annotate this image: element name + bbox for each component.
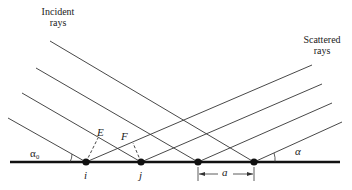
- incident-ray-4: [8, 118, 86, 162]
- point-F-label: F: [121, 131, 128, 142]
- scattered-rays: [86, 65, 342, 162]
- atom-j-label: j: [139, 170, 142, 181]
- atom-3: [194, 158, 201, 165]
- alpha-label: α: [295, 146, 301, 157]
- alpha0-label: α₀: [30, 148, 40, 159]
- incident-ray-1: [50, 41, 254, 162]
- diffraction-diagram: Incident rays Scattered rays α₀ α E F i …: [0, 0, 352, 190]
- incident-rays-label: Incident rays: [33, 6, 83, 28]
- path-difference-E: [86, 138, 98, 162]
- atom-i: [82, 158, 89, 165]
- scattered-rays-label: Scattered rays: [295, 34, 349, 56]
- point-E-label: E: [97, 127, 104, 138]
- arrowhead-right-icon: [247, 172, 253, 176]
- atom-i-label: i: [84, 170, 87, 181]
- arrowhead-left-icon: [199, 172, 205, 176]
- diagram-canvas: [0, 0, 352, 190]
- scattered-label-line2: rays: [295, 45, 349, 56]
- incident-label-line2: rays: [33, 17, 83, 28]
- angle-arc-alpha: [274, 153, 275, 162]
- scattered-ray-3: [198, 103, 332, 162]
- atom-4: [250, 158, 257, 165]
- incident-rays: [8, 41, 254, 162]
- incident-label-line1: Incident: [33, 6, 83, 17]
- spacing-a-label: a: [222, 167, 228, 178]
- atom-j: [137, 158, 144, 165]
- scattered-label-line1: Scattered: [295, 34, 349, 45]
- scattered-ray-1: [86, 65, 312, 162]
